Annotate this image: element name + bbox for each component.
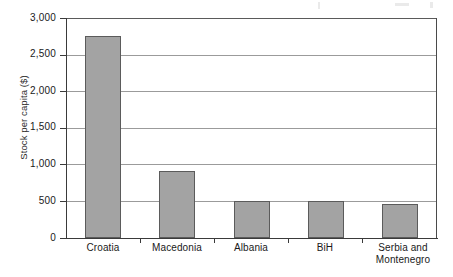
x-category-label-macedonia: Macedonia xyxy=(140,242,214,254)
bar-albania[interactable] xyxy=(234,201,270,238)
scan-artifact xyxy=(430,2,433,8)
x-category-label-albania: Albania xyxy=(214,242,288,254)
y-tick-label-500: 500 xyxy=(4,195,56,206)
scan-artifact xyxy=(395,3,409,6)
bars-layer xyxy=(66,18,437,238)
y-tick-label-2500: 2,500 xyxy=(4,48,56,59)
bar-serbia-and-montenegro[interactable] xyxy=(382,204,418,238)
y-tick-label-2000: 2,000 xyxy=(4,85,56,96)
y-axis-title: Stock per capita ($) xyxy=(18,38,29,198)
bar-bih[interactable] xyxy=(308,201,344,238)
x-axis-line xyxy=(60,238,438,239)
scan-artifact xyxy=(318,2,320,9)
y-tick-label-3000: 3,000 xyxy=(4,12,56,23)
x-category-label-serbia-and-montenegro: Serbia and Montenegro xyxy=(362,242,444,266)
y-tick-label-1000: 1,000 xyxy=(4,158,56,169)
bar-croatia[interactable] xyxy=(85,36,121,238)
bar-chart: Stock per capita ($) 3,000 2,500 2,000 1… xyxy=(0,0,453,277)
x-category-label-bih: BiH xyxy=(288,242,362,254)
bar-macedonia[interactable] xyxy=(159,171,195,238)
x-category-label-line-2: Montenegro xyxy=(362,254,444,266)
y-tick-label-0: 0 xyxy=(4,232,56,243)
x-category-label-line-1: Serbia and xyxy=(362,242,444,254)
y-tick-label-1500: 1,500 xyxy=(4,121,56,132)
x-category-label-croatia: Croatia xyxy=(66,242,140,254)
